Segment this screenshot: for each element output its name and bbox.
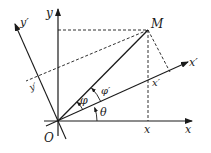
theta-label: θ — [100, 106, 107, 119]
dash-m-to-y-prime — [26, 30, 148, 81]
dash-m-to-x-prime — [148, 30, 170, 72]
y-axis-label: y — [45, 6, 53, 20]
phi-prime-arc — [92, 88, 102, 102]
coordinate-rotation-diagram: y x y′ x′ M O x x′ y′ θ φ φ′ — [0, 0, 211, 153]
x-projection-label: x — [144, 123, 151, 136]
origin-label: O — [44, 131, 54, 145]
projection-lines — [26, 30, 170, 121]
phi-label: φ — [80, 94, 88, 107]
y-prime-axis-label: y′ — [19, 16, 29, 29]
x-axis-label: x — [185, 123, 192, 136]
x-prime-axis-label: x′ — [189, 56, 198, 69]
phi-prime-label: φ′ — [101, 85, 111, 96]
theta-arc — [95, 108, 97, 122]
x-prime-projection-label: x′ — [152, 77, 161, 88]
point-m-label: M — [150, 17, 164, 31]
x-prime-axis — [46, 62, 188, 126]
y-prime-projection-label: y′ — [27, 81, 38, 93]
